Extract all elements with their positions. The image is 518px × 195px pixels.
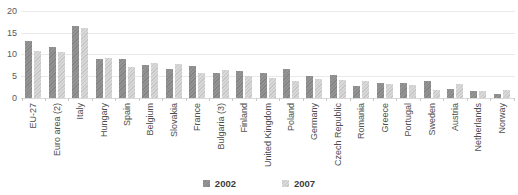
x-tick xyxy=(162,98,163,101)
x-label-text: Sweden xyxy=(427,103,437,136)
x-tick xyxy=(490,98,491,101)
x-tick xyxy=(256,98,257,101)
x-tick xyxy=(373,98,374,101)
gridline-0 xyxy=(21,98,515,99)
bar-2007-austria xyxy=(456,84,463,98)
x-label-text: Finland xyxy=(239,103,249,133)
y-tick-label-10: 10 xyxy=(1,49,17,59)
bar-2007-germany xyxy=(315,79,322,98)
y-tick-label-15: 15 xyxy=(1,28,17,38)
x-tick xyxy=(279,98,280,101)
x-tick xyxy=(232,98,233,101)
legend-swatch-2002 xyxy=(203,180,210,187)
legend: 2002 2007 xyxy=(0,178,518,189)
bar-2002-united-kingdom xyxy=(260,73,267,98)
x-label-text: Bulgaria (3) xyxy=(216,103,226,150)
x-label-text: Norway xyxy=(497,103,507,134)
bar-2002-romania xyxy=(353,86,360,98)
bar-2002-czech-republic xyxy=(330,75,337,98)
bar-2002-netherlands xyxy=(470,91,477,98)
x-label-text: Spain xyxy=(122,103,132,126)
x-label-text: Italy xyxy=(75,103,85,120)
bar-2002-hungary xyxy=(96,59,103,98)
gridline-10 xyxy=(21,54,515,55)
x-label-text: Greece xyxy=(380,103,390,133)
x-tick xyxy=(396,98,397,101)
x-tick xyxy=(303,98,304,101)
bar-2002-greece xyxy=(377,83,384,98)
x-label-text: Hungary xyxy=(99,103,109,137)
bar-2002-italy xyxy=(72,26,79,98)
bar-2007-spain xyxy=(128,67,135,98)
bar-2002-belgium xyxy=(142,65,149,98)
x-tick xyxy=(186,98,187,101)
bar-2002-sweden xyxy=(424,81,431,98)
bar-2002-france xyxy=(189,66,196,98)
legend-label-2007: 2007 xyxy=(294,178,315,189)
bar-2002-finland xyxy=(236,71,243,98)
gridline-15 xyxy=(21,33,515,34)
x-label-text: Czech Republic xyxy=(333,103,343,166)
x-label-text: United Kingdom xyxy=(263,103,273,167)
bar-2002-austria xyxy=(447,89,454,98)
y-tick-label-0: 0 xyxy=(1,93,17,103)
y-tick-label-5: 5 xyxy=(1,71,17,81)
x-label-text: Austria xyxy=(450,103,460,131)
legend-label-2002: 2002 xyxy=(215,178,236,189)
legend-swatch-2007 xyxy=(282,180,289,187)
bar-2007-norway xyxy=(503,90,510,98)
bar-2007-greece xyxy=(386,84,393,98)
bar-2002-eu-27 xyxy=(25,41,32,98)
bar-2007-bulgaria-3 xyxy=(222,70,229,98)
x-label-text: Portugal xyxy=(403,103,413,137)
bar-2007-finland xyxy=(245,76,252,98)
bar-2002-germany xyxy=(306,76,313,98)
bar-2002-bulgaria-3 xyxy=(213,73,220,98)
x-tick xyxy=(443,98,444,101)
x-tick xyxy=(326,98,327,101)
gridline-20 xyxy=(21,11,515,12)
bar-2007-sweden xyxy=(433,90,440,98)
x-tick xyxy=(115,98,116,101)
bar-2007-netherlands xyxy=(479,91,486,98)
bar-2002-poland xyxy=(283,69,290,98)
bar-2007-euro-area-2 xyxy=(58,52,65,98)
x-tick xyxy=(350,98,351,101)
bar-2007-poland xyxy=(292,81,299,98)
x-tick xyxy=(514,98,515,101)
bar-2007-italy xyxy=(81,28,88,98)
bar-2002-norway xyxy=(494,94,501,98)
x-tick xyxy=(420,98,421,101)
bar-chart: 05101520 EU-27Euro area (2)ItalyHungaryS… xyxy=(0,0,518,195)
x-label-text: Euro area (2) xyxy=(52,103,62,156)
x-tick xyxy=(209,98,210,101)
x-label-text: Belgium xyxy=(145,103,155,136)
x-tick xyxy=(92,98,93,101)
bar-2002-portugal xyxy=(400,83,407,98)
bar-2002-euro-area-2 xyxy=(49,47,56,98)
x-label-text: Netherlands xyxy=(473,103,483,152)
x-tick xyxy=(68,98,69,101)
y-tick-label-20: 20 xyxy=(1,6,17,16)
x-label-text: Slovakia xyxy=(169,103,179,137)
x-tick xyxy=(45,98,46,101)
bar-2007-portugal xyxy=(409,85,416,98)
bar-2007-belgium xyxy=(151,63,158,98)
bar-2007-france xyxy=(198,73,205,98)
x-label-text: France xyxy=(192,103,202,131)
bar-2007-czech-republic xyxy=(339,80,346,98)
x-label-text: EU-27 xyxy=(28,103,38,129)
legend-item-2007: 2007 xyxy=(282,178,315,189)
bar-2002-spain xyxy=(119,59,126,98)
bar-2007-romania xyxy=(362,81,369,98)
bar-2007-slovakia xyxy=(175,64,182,98)
x-tick xyxy=(467,98,468,101)
bar-2007-hungary xyxy=(105,58,112,98)
x-tick xyxy=(22,98,23,101)
bar-2007-united-kingdom xyxy=(269,78,276,98)
x-label-text: Germany xyxy=(309,103,319,140)
x-tick xyxy=(139,98,140,101)
x-label-text: Romania xyxy=(356,103,366,139)
x-label-text: Poland xyxy=(286,103,296,131)
bar-2007-eu-27 xyxy=(34,51,41,98)
